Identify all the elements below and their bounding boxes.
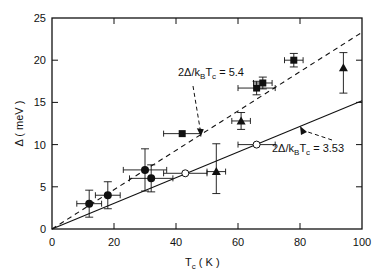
data-point-circle-open — [238, 141, 275, 148]
fit-line-strong-coupling — [52, 32, 362, 229]
y-tick-label: 0 — [40, 223, 46, 235]
x-tick-label: 60 — [232, 236, 244, 248]
x-tick-label: 100 — [353, 236, 371, 248]
annotation-arrow-3-53 — [302, 130, 332, 140]
marker-filled-circle — [147, 174, 155, 182]
marker-filled-circle — [104, 191, 112, 199]
annotation-ratio-5-4-text: 2Δ/kBTc = 5.4 — [178, 66, 244, 81]
data-point-circle-filled — [77, 190, 102, 217]
y-tick-label: 5 — [40, 181, 46, 193]
fit-lines — [52, 32, 362, 229]
marker-filled-circle — [85, 200, 93, 208]
y-tick-label: 10 — [34, 139, 46, 151]
marker-filled-circle — [141, 166, 149, 174]
marker-filled-triangle — [212, 167, 221, 175]
data-point-triangle-filled — [339, 53, 348, 94]
x-tick-label: 80 — [294, 236, 306, 248]
marker-filled-square — [253, 85, 260, 92]
fit-line-bcs-weak-coupling — [52, 101, 362, 229]
y-axis-label: Δ ( meV ) — [13, 101, 25, 147]
data-point-circle-filled — [95, 182, 120, 209]
y-tick-label: 25 — [34, 12, 46, 24]
data-point-triangle-filled — [207, 144, 226, 194]
y-tick-label: 15 — [34, 96, 46, 108]
data-point-circle-open — [164, 170, 207, 177]
x-axis-label: Tc ( K ) — [185, 256, 220, 271]
marker-open-circle — [253, 141, 260, 148]
data-point-square-filled — [164, 130, 201, 137]
marker-filled-triangle — [237, 116, 246, 124]
chart: 0204060801000510152025Tc ( K )Δ ( meV ) … — [0, 0, 385, 280]
marker-filled-square — [290, 57, 297, 64]
x-tick-label: 40 — [170, 236, 182, 248]
arrowhead-3-53 — [300, 126, 307, 135]
x-tick-label: 0 — [49, 236, 55, 248]
annotation-ratio-3-53-text: 2Δ/kBTc = 3.53 — [272, 142, 344, 157]
marker-filled-triangle — [339, 63, 348, 71]
annotation-arrow-5-4 — [193, 86, 201, 133]
data-point-triangle-filled — [232, 113, 251, 130]
marker-filled-square — [259, 79, 266, 86]
x-tick-label: 20 — [108, 236, 120, 248]
marker-open-circle — [182, 170, 189, 177]
plot-frame — [52, 18, 362, 229]
marker-filled-square — [179, 130, 186, 137]
data-point-square-filled — [285, 53, 304, 67]
y-tick-label: 20 — [34, 54, 46, 66]
arrowhead-5-4 — [197, 128, 204, 136]
